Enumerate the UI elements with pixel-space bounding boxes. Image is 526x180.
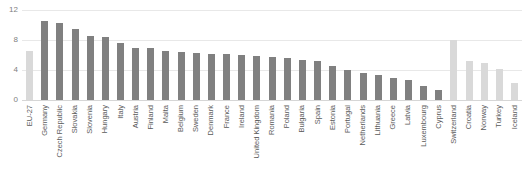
x-tick-label: Italy [117, 105, 125, 119]
x-label-slot: Poland [280, 103, 295, 180]
bar [466, 61, 473, 100]
x-label-slot: Slovenia [83, 103, 98, 180]
x-label-slot: Croatia [462, 103, 477, 180]
x-label-slot: Netherlands [355, 103, 370, 180]
bar-slot [128, 10, 143, 100]
bar-slot [158, 10, 173, 100]
x-tick-label: Latvia [405, 105, 413, 125]
bar-slot [492, 10, 507, 100]
x-tick-label: Sweden [193, 105, 201, 132]
bar [253, 56, 260, 100]
x-tick-label: Denmark [208, 105, 216, 135]
bar-slot [204, 10, 219, 100]
bar-slot [416, 10, 431, 100]
bar [102, 37, 109, 100]
bar [284, 58, 291, 100]
bar-slot [219, 10, 234, 100]
bar-slot [507, 10, 522, 100]
x-tick-label: Lithuania [374, 105, 382, 135]
bar-slot [249, 10, 264, 100]
bar [87, 36, 94, 101]
bar-slot [67, 10, 82, 100]
bar-slot [325, 10, 340, 100]
x-tick-label: Estonia [329, 105, 337, 130]
bar [41, 21, 48, 101]
bar-slot [143, 10, 158, 100]
x-label-slot: Turkey [492, 103, 507, 180]
bar-slot [462, 10, 477, 100]
plot-area [22, 10, 522, 100]
x-tick-label: Austria [132, 105, 140, 128]
bar-slot [113, 10, 128, 100]
bar [435, 90, 442, 100]
bar-slot [386, 10, 401, 100]
bar-slot [22, 10, 37, 100]
bar-slot [52, 10, 67, 100]
bar-chart: 04812 EU-27GermanyCzech RepublicSlovakia… [0, 0, 526, 180]
bar-slot [371, 10, 386, 100]
x-tick-label: Netherlands [359, 105, 367, 145]
bar-slot [265, 10, 280, 100]
x-label-slot: Iceland [507, 103, 522, 180]
x-tick-label: Poland [283, 105, 291, 128]
bar [481, 63, 488, 101]
x-tick-label: Malta [162, 105, 170, 123]
x-tick-label: Slovenia [86, 105, 94, 134]
bar [344, 70, 351, 100]
bar [238, 55, 245, 100]
x-label-slot: Cyprus [431, 103, 446, 180]
bar-slot [295, 10, 310, 100]
bar [132, 48, 139, 101]
bar-slot [401, 10, 416, 100]
x-label-slot: Switzerland [446, 103, 461, 180]
x-tick-label: Finland [147, 105, 155, 130]
x-tick-label: Luxembourg [420, 105, 428, 147]
x-tick-label: Spain [314, 105, 322, 124]
bar [56, 23, 63, 100]
bar-series [22, 10, 522, 100]
bar [511, 83, 518, 100]
bar-slot [98, 10, 113, 100]
x-tick-label: France [223, 105, 231, 128]
bar [208, 54, 215, 101]
x-label-slot: EU-27 [22, 103, 37, 180]
x-tick-label: Iceland [511, 105, 519, 129]
bar-slot [174, 10, 189, 100]
x-label-slot: Malta [158, 103, 173, 180]
x-tick-label: Greece [390, 105, 398, 130]
x-label-slot: Czech Republic [52, 103, 67, 180]
x-label-slot: Latvia [401, 103, 416, 180]
x-label-slot: Austria [128, 103, 143, 180]
x-tick-label: Ireland [238, 105, 246, 128]
x-label-slot: Lithuania [371, 103, 386, 180]
y-tick-label-12: 12 [9, 6, 18, 14]
x-label-slot: Hungary [98, 103, 113, 180]
x-label-slot: Belgium [174, 103, 189, 180]
bar-slot [234, 10, 249, 100]
x-tick-label: EU-27 [26, 105, 34, 126]
y-tick-label-0: 0 [14, 96, 18, 104]
x-tick-label: Cyprus [435, 105, 443, 129]
bar-slot [431, 10, 446, 100]
gridline-0 [22, 100, 522, 101]
bar-slot [189, 10, 204, 100]
x-tick-label: Bulgaria [299, 105, 307, 133]
bar [420, 86, 427, 100]
x-label-slot: Portugal [340, 103, 355, 180]
x-label-slot: United Kingdom [249, 103, 264, 180]
y-tick-label-8: 8 [14, 36, 18, 44]
bar [496, 69, 503, 101]
x-label-slot: Greece [386, 103, 401, 180]
bar-slot [340, 10, 355, 100]
x-tick-label: Croatia [465, 105, 473, 129]
x-label-slot: Ireland [234, 103, 249, 180]
bar [269, 57, 276, 101]
x-tick-label: Germany [41, 105, 49, 136]
bar [405, 80, 412, 100]
x-label-slot: Sweden [189, 103, 204, 180]
bar [390, 78, 397, 100]
x-label-slot: Bulgaria [295, 103, 310, 180]
x-tick-label: Turkey [496, 105, 504, 128]
bar [178, 52, 185, 100]
bar [450, 40, 457, 100]
